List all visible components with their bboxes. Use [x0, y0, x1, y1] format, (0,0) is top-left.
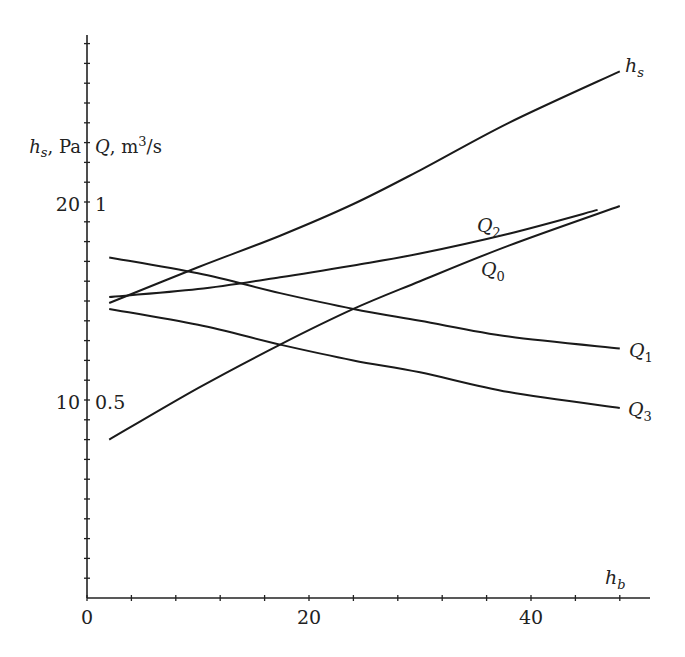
series-lines [109, 71, 620, 439]
series-label-q1: Q1 [629, 339, 653, 365]
series-label-q0: Q0 [481, 258, 505, 284]
x-tick-label-0: 0 [81, 606, 93, 628]
x-axis-title: hb [605, 566, 626, 592]
series-label-q2: Q2 [477, 214, 501, 240]
y-right-axis-title: Q, m3/s [95, 134, 162, 157]
series-line-q3 [109, 309, 620, 408]
chart: 0 20 40 20 10 1 0.5 hs, Pa Q, m3/s hb hs… [0, 0, 685, 657]
y-right-tick-label-0.5: 0.5 [95, 391, 125, 413]
series-line-q2 [109, 210, 597, 297]
axes [87, 35, 650, 598]
y-right-tick-label-1: 1 [95, 193, 107, 215]
x-tick-label-20: 20 [297, 606, 321, 628]
x-tick-label-40: 40 [519, 606, 543, 628]
series-label-hs: hs [625, 54, 644, 80]
series-label-q3: Q3 [628, 398, 652, 424]
series-line-hs [109, 71, 620, 303]
y-left-tick-label-10: 10 [56, 391, 80, 413]
y-left-axis-title: hs, Pa [29, 136, 81, 160]
y-left-tick-label-20: 20 [56, 193, 80, 215]
